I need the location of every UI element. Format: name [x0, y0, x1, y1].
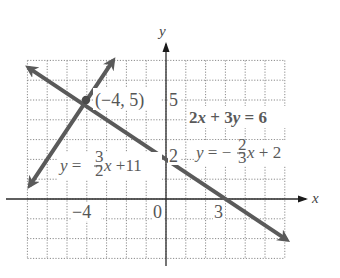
svg-text:x + 2: x + 2 [246, 143, 281, 162]
point-label: (−4, 5) [95, 90, 144, 111]
svg-text:y =: y = [58, 156, 81, 175]
equation-standard-form: 2x + 3y = 6 [189, 108, 267, 127]
svg-text:2: 2 [95, 161, 104, 180]
x-tick-0: 0 [153, 202, 162, 222]
coordinate-plane: y x (−4, 5) 5 2 −4 0 3 2x + 3y = 6 y = −… [0, 0, 340, 278]
svg-text:3: 3 [238, 148, 247, 167]
x-axis-label: x [311, 190, 319, 206]
svg-text:y = −: y = − [194, 143, 231, 162]
x-tick-3: 3 [214, 202, 223, 222]
intersection-point [82, 96, 90, 104]
svg-text:x +11: x +11 [103, 156, 142, 175]
x-tick-neg4: −4 [72, 202, 91, 222]
y-tick-2: 2 [169, 146, 178, 166]
y-axis-label: y [157, 23, 166, 39]
y-tick-5: 5 [169, 90, 178, 110]
